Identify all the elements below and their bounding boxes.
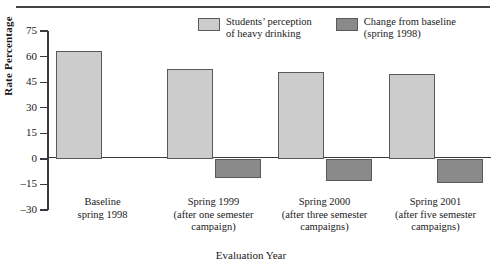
bar-series2-cat2 [215, 159, 261, 178]
y-tick-label-6: –15 [0, 178, 37, 189]
y-tick-label-5: 0 [0, 153, 37, 164]
x-category-label-4-line3: campaigns) [368, 221, 502, 234]
bar-series-group [47, 28, 491, 210]
x-category-label-4-line2: (after five semester [368, 209, 502, 222]
plot-area: 75604530150–15–30 [47, 28, 491, 210]
y-tick-label-3: 30 [0, 102, 37, 113]
x-category-label-4-line1: Spring 2001 [368, 196, 502, 209]
y-tick-label-2: 45 [0, 76, 37, 87]
y-tick-label-0: 75 [0, 25, 37, 36]
bar-series1-cat3 [278, 72, 324, 159]
bar-series1-cat4 [389, 74, 435, 159]
top-rule-divider [16, 6, 490, 8]
x-axis-title: Evaluation Year [0, 249, 502, 261]
x-category-label-4: Spring 2001(after five semestercampaigns… [368, 196, 502, 234]
chart-figure: Students’ perception of heavy drinking C… [0, 0, 502, 274]
y-tick-label-4: 15 [0, 127, 37, 138]
legend-label-perception-line1: Students’ perception [226, 16, 312, 27]
x-axis-category-labels: Baselinespring 1998Spring 1999(after one… [47, 196, 491, 246]
legend-label-change-line1: Change from baseline [364, 16, 456, 27]
bar-series1-cat1 [56, 51, 102, 158]
bar-series2-cat4 [437, 159, 483, 183]
bar-series1-cat2 [167, 69, 213, 159]
y-tick-label-7: –30 [0, 204, 37, 215]
bar-series2-cat3 [326, 159, 372, 181]
y-tick-label-1: 60 [0, 51, 37, 62]
